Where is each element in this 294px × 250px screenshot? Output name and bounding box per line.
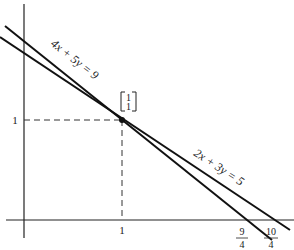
x-tick-1: 1 <box>119 224 125 236</box>
svg-text:4: 4 <box>269 239 274 250</box>
intersection-dot <box>119 117 125 123</box>
svg-text:1: 1 <box>126 101 131 112</box>
svg-text:10: 10 <box>266 226 276 237</box>
x-intercept-10-4: 10 4 <box>264 226 278 250</box>
y-tick-1: 1 <box>12 114 18 126</box>
linear-system-diagram: 4x + 5y = 9 2x + 3y = 5 1 1 1 1 9 4 10 4 <box>0 0 294 250</box>
x-intercept-9-4: 9 4 <box>236 226 248 250</box>
line-4x-5y-9 <box>5 26 272 240</box>
line-2x-3y-5 <box>0 37 290 230</box>
svg-text:9: 9 <box>240 226 245 237</box>
svg-text:4: 4 <box>240 239 245 250</box>
intersection-vector-label: 1 1 <box>121 92 136 112</box>
